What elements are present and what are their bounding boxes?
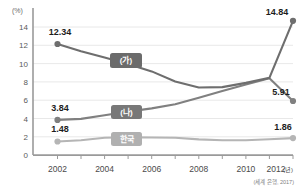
ga-end-point xyxy=(290,18,296,24)
na-inline-label: (나) xyxy=(111,105,142,119)
na-label-text: (나) xyxy=(120,107,133,117)
x-tick-2006: 2006 xyxy=(142,164,161,174)
na-end-value: 5.91 xyxy=(272,87,290,97)
ga-end-value: 14.84 xyxy=(266,7,289,17)
ga-label-text: (가) xyxy=(120,55,133,65)
series-ga: 12.34 14.84 (가) xyxy=(49,7,296,88)
na-start-point xyxy=(54,117,60,123)
x-axis-unit-label: (년) xyxy=(283,166,293,173)
na-end-point xyxy=(290,98,296,104)
x-tick-2002: 2002 xyxy=(48,164,67,174)
y-tick-6: 6 xyxy=(24,96,29,105)
korea-start-value: 1.48 xyxy=(51,124,69,134)
y-tick-4: 4 xyxy=(24,115,29,124)
korea-label-text: 한국 xyxy=(120,134,135,144)
y-tick-8: 8 xyxy=(24,78,29,87)
source-note: (세계 은행, 2017) xyxy=(254,178,295,186)
y-tick-0: 0 xyxy=(24,151,29,160)
y-tick-12: 12 xyxy=(19,41,28,50)
x-tick-2010: 2010 xyxy=(236,164,255,174)
x-axis-ticks: 2002 2004 2006 2008 2010 2012 (년) xyxy=(48,164,293,174)
ga-start-point xyxy=(54,41,60,47)
korea-inline-label: 한국 xyxy=(111,132,142,146)
y-axis-ticks: 14 12 10 8 6 4 2 0 xyxy=(19,23,28,160)
ga-start-value: 12.34 xyxy=(49,27,72,37)
series-korea: 1.48 1.86 한국 xyxy=(51,122,296,146)
ga-line xyxy=(58,21,294,88)
y-tick-14: 14 xyxy=(19,23,28,32)
ga-inline-label: (가) xyxy=(110,53,142,68)
y-tick-10: 10 xyxy=(19,60,28,69)
x-tick-2004: 2004 xyxy=(95,164,114,174)
korea-end-value: 1.86 xyxy=(274,122,292,132)
chart-page: (%) 14 12 10 8 6 4 2 0 xyxy=(0,0,298,194)
korea-start-point xyxy=(54,138,60,144)
line-chart: (%) 14 12 10 8 6 4 2 0 xyxy=(0,0,298,194)
korea-line xyxy=(58,137,294,141)
korea-end-point xyxy=(290,135,296,141)
x-tick-2008: 2008 xyxy=(189,164,208,174)
y-tick-2: 2 xyxy=(24,133,29,142)
y-axis-unit-label: (%) xyxy=(12,7,23,15)
na-start-value: 3.84 xyxy=(51,103,69,113)
na-line xyxy=(58,78,294,120)
